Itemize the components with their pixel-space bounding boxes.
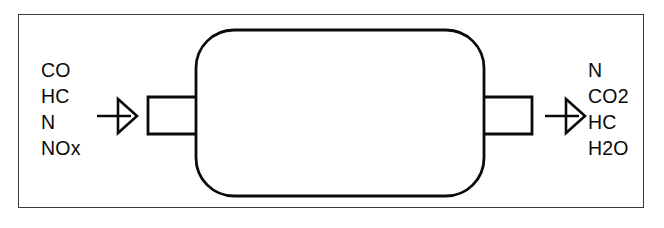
inlet-pipe [148, 97, 196, 134]
outlet-species-2: CO2 [588, 83, 629, 109]
inlet-flow-arrow [97, 99, 137, 133]
outlet-pipe [484, 97, 532, 134]
inlet-species-1: CO [41, 57, 81, 83]
inlet-species-2: HC [41, 83, 81, 109]
catalytic-converter-body [196, 30, 484, 196]
inlet-gas-labels: CO HC N NOx [41, 57, 81, 161]
outlet-flow-arrow [545, 99, 585, 133]
diagram-canvas: CO HC N NOx N CO2 HC H2O [0, 0, 664, 228]
inlet-species-4: NOx [41, 135, 81, 161]
diagram-line-art [0, 0, 664, 228]
outlet-species-4: H2O [588, 135, 629, 161]
outlet-species-3: HC [588, 109, 629, 135]
outlet-species-1: N [588, 57, 629, 83]
inlet-species-3: N [41, 109, 81, 135]
outlet-gas-labels: N CO2 HC H2O [588, 57, 629, 161]
